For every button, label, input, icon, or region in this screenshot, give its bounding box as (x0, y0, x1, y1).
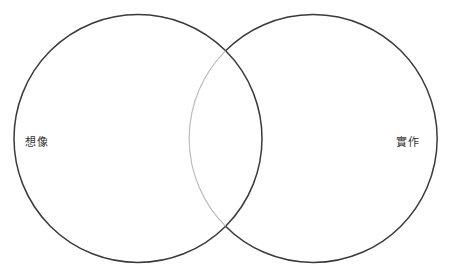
right-set-circle-inner-arc (189, 51, 225, 226)
left-set-label: 想像 (25, 136, 48, 150)
right-set-label: 實作 (396, 136, 419, 150)
venn-diagram: 想像 實作 (0, 0, 451, 273)
venn-svg (0, 0, 451, 273)
